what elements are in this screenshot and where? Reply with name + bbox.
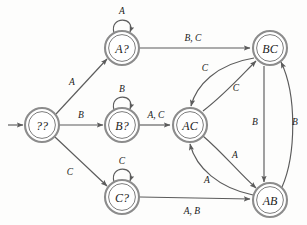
- node-label-ab: AB: [262, 194, 278, 208]
- edge-label-start-to-bq: B: [78, 110, 84, 120]
- node-cq[interactable]: C?: [105, 180, 139, 214]
- edge-ac-to-ab: [203, 136, 256, 188]
- node-label-start: ??: [36, 119, 48, 133]
- node-aq[interactable]: A?: [105, 31, 139, 65]
- edge-start-to-aq: [56, 59, 107, 114]
- edge-label-bq-self-loop: B: [119, 84, 125, 94]
- edge-cq-to-ab: [140, 197, 250, 199]
- fsm-canvas: ?? A? B? C? AC: [0, 0, 307, 225]
- node-label-cq: C?: [115, 191, 129, 205]
- edge-label-bq-to-ac: A, C: [147, 110, 166, 120]
- node-label-bq: B?: [115, 119, 128, 133]
- node-ac[interactable]: AC: [173, 108, 207, 142]
- edge-label-bc-to-ac: C: [202, 63, 209, 73]
- node-bc[interactable]: BC: [253, 31, 287, 65]
- edge-label-ac-to-ab: A: [231, 150, 238, 160]
- edge-label-start-to-aq: A: [68, 77, 75, 87]
- node-label-aq: A?: [114, 42, 128, 56]
- edge-label-cq-self-loop: C: [119, 156, 126, 166]
- edge-label-start-to-cq: C: [67, 167, 74, 177]
- edge-bc-to-ac: [191, 58, 254, 106]
- node-label-ac: AC: [181, 119, 198, 133]
- edge-label-ab-to-bc: B: [292, 117, 298, 127]
- edge-ac-to-bc: [203, 61, 256, 111]
- edge-start-to-cq: [55, 137, 107, 186]
- node-ab[interactable]: AB: [253, 183, 287, 217]
- edge-label-ab-to-ac: A: [203, 175, 210, 185]
- edge-label-aq-self-loop: A: [118, 6, 125, 16]
- state-machine-diagram: ?? A? B? C? AC: [0, 0, 307, 225]
- node-bq[interactable]: B?: [105, 108, 139, 142]
- node-start[interactable]: ??: [25, 108, 59, 142]
- edge-ab-to-ac: [190, 144, 253, 195]
- edge-label-cq-to-ab: A, B: [183, 206, 201, 216]
- edge-label-aq-to-bc: B, C: [185, 33, 203, 43]
- node-label-bc: BC: [262, 42, 278, 56]
- edge-ab-to-bc: [281, 62, 293, 187]
- edge-label-ac-to-bc: C: [233, 83, 240, 93]
- edge-label-bc-to-ab: B: [252, 117, 258, 127]
